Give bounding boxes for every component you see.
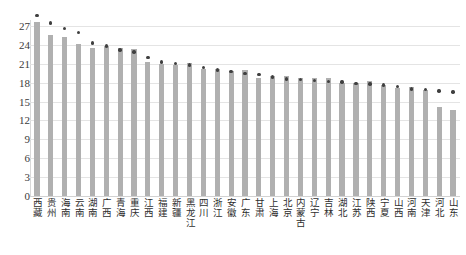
data-point (299, 78, 302, 81)
data-point (396, 85, 399, 88)
data-point (160, 60, 163, 63)
data-point (340, 80, 343, 83)
x-axis-label: 海南 (60, 198, 70, 218)
data-point (451, 90, 454, 93)
x-axis-label: 陕西 (365, 198, 375, 218)
x-axis-label: 新疆 (171, 198, 181, 218)
chart-container: 0369121518212427 西藏贵州海南云南湖南广西青海重庆江西福建新疆黑… (0, 0, 466, 255)
data-point (63, 27, 66, 30)
x-axis-label: 云南 (74, 198, 84, 218)
x-axis-label: 河南 (406, 198, 416, 218)
data-point (368, 82, 371, 85)
data-point (105, 44, 108, 47)
data-point (410, 87, 413, 90)
x-axis-label: 江苏 (351, 198, 361, 218)
x-axis-label: 西藏 (32, 198, 42, 218)
x-axis-label: 吉林 (323, 198, 333, 218)
x-axis-label: 广西 (101, 198, 111, 218)
x-axis-label: 黑龙江 (185, 198, 195, 228)
y-tick-label: 15 (4, 96, 30, 107)
data-point (271, 75, 274, 78)
data-point (229, 70, 232, 73)
data-point (313, 79, 316, 82)
data-point (243, 72, 246, 75)
data-point (132, 50, 135, 53)
data-point (437, 89, 440, 92)
x-axis-label: 福建 (157, 198, 167, 218)
x-axis-label: 湖南 (87, 198, 97, 218)
y-tick-label: 27 (4, 21, 30, 32)
y-tick-label: 21 (4, 58, 30, 69)
x-axis-label: 浙江 (212, 198, 222, 218)
y-tick-label: 18 (4, 77, 30, 88)
x-axis-label: 青海 (115, 198, 125, 218)
y-tick-label: 6 (4, 153, 30, 164)
data-point (146, 56, 149, 59)
x-axis-label: 安徽 (226, 198, 236, 218)
x-axis-label: 广东 (240, 198, 250, 218)
data-point (216, 68, 219, 71)
data-point (382, 83, 385, 86)
data-point (174, 62, 177, 65)
plot-area (30, 0, 460, 197)
y-tick-label: 24 (4, 39, 30, 50)
x-axis-label: 北京 (282, 198, 292, 218)
data-point (49, 21, 52, 24)
data-point (77, 31, 80, 34)
x-axis-label: 江西 (143, 198, 153, 218)
x-axis-label: 宁夏 (379, 198, 389, 218)
data-point (118, 48, 121, 51)
data-point (202, 66, 205, 69)
y-tick-label: 12 (4, 115, 30, 126)
x-axis-label: 甘肃 (254, 198, 264, 218)
y-tick-label: 9 (4, 134, 30, 145)
x-axis-label: 湖北 (337, 198, 347, 218)
x-axis-label: 四川 (198, 198, 208, 218)
data-point (327, 80, 330, 83)
y-tick-label: 0 (4, 191, 30, 202)
data-point (354, 82, 357, 85)
y-axis-tick-labels: 0369121518212427 (0, 0, 30, 197)
x-axis-label: 上海 (268, 198, 278, 218)
data-point (424, 88, 427, 91)
data-point (91, 41, 94, 44)
x-axis-label: 内蒙古 (295, 198, 305, 228)
x-axis-label: 山西 (393, 198, 403, 218)
x-axis-label: 山东 (448, 198, 458, 218)
x-axis-label: 天津 (420, 198, 430, 218)
dot-series-layer (30, 0, 460, 197)
data-point (35, 14, 38, 17)
x-axis-label: 贵州 (46, 198, 56, 218)
x-axis-label: 重庆 (129, 198, 139, 218)
data-point (188, 63, 191, 66)
x-axis-category-labels: 西藏贵州海南云南湖南广西青海重庆江西福建新疆黑龙江四川浙江安徽广东甘肃上海北京内… (30, 198, 460, 255)
x-axis-label: 辽宁 (309, 198, 319, 218)
y-tick-label: 3 (4, 172, 30, 183)
x-axis-label: 河北 (434, 198, 444, 218)
data-point (257, 73, 260, 76)
data-point (285, 77, 288, 80)
